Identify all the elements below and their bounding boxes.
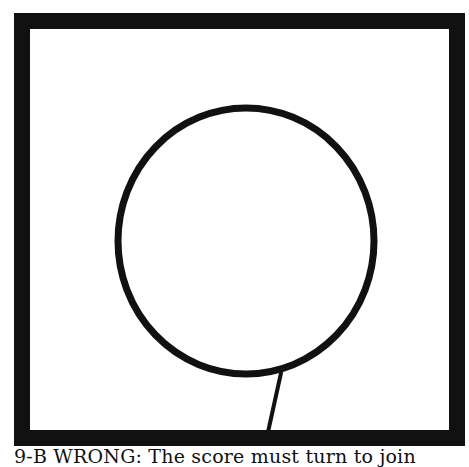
score-line <box>268 373 281 432</box>
ring-shape <box>118 108 374 374</box>
figure-caption: 9-B WRONG: The score must turn to join <box>14 445 416 467</box>
